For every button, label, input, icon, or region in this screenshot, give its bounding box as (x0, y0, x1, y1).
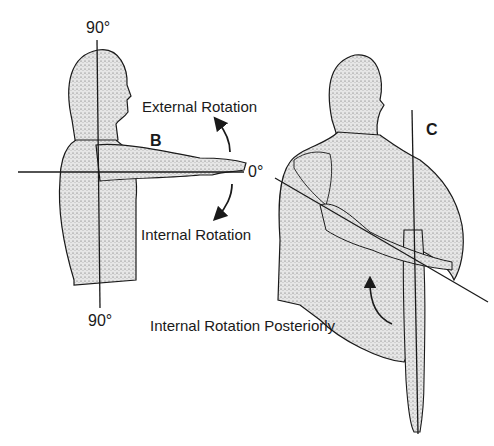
shoulder-rotation-illustration (0, 0, 494, 446)
angle-label-top-b: 90° (86, 20, 110, 36)
panel-letter-c: C (426, 122, 438, 138)
angle-label-bottom-b: 90° (88, 313, 112, 329)
angle-label-zero-b: 0° (248, 164, 263, 180)
internal-rotation-arrow (218, 184, 232, 216)
figure-c-body (278, 55, 463, 432)
internal-rotation-label: Internal Rotation (141, 227, 251, 243)
figure-b-body (60, 50, 246, 285)
panel-letter-b: B (150, 133, 162, 149)
external-rotation-label: External Rotation (142, 99, 257, 115)
internal-rotation-posteriorly-label: Internal Rotation Posteriorly (150, 318, 335, 334)
external-rotation-arrow (218, 122, 230, 152)
